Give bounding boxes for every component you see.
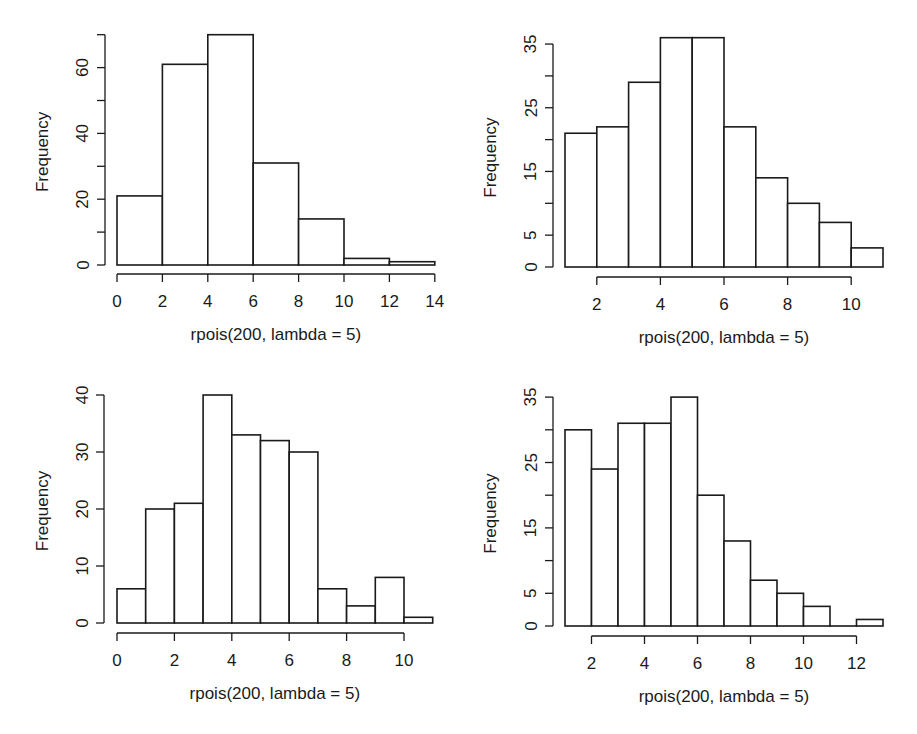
histogram-bar [777,593,804,626]
histogram-bar [597,127,629,267]
histogram-bar [404,617,433,623]
y-tick-label: 35 [522,388,541,407]
x-axis: 02468101214 [112,274,444,311]
y-axis: 010203040 [73,386,105,628]
y-axis-title: Frequency [34,111,53,192]
x-tick-label: 12 [847,654,866,673]
y-tick-label: 25 [522,453,541,472]
histogram-bar [208,35,253,265]
x-tick-label: 4 [640,654,649,673]
x-tick-label: 2 [592,295,601,314]
x-tick-label: 6 [248,292,257,311]
x-tick-label: 6 [693,654,702,673]
x-axis: 0246810 [112,633,413,670]
y-tick-label: 20 [74,190,93,209]
histogram-bar [565,133,597,267]
bars [565,38,883,267]
histogram-figure: 0204060Frequency02468101214rpois(200, la… [0,0,917,734]
histogram-bar [592,469,619,626]
histogram-panel-top-left: 0204060Frequency02468101214rpois(200, la… [34,35,445,344]
x-axis-title: rpois(200, lambda = 5) [639,328,810,347]
histogram-bar [174,503,203,623]
x-tick-label: 4 [227,651,236,670]
x-tick-label: 10 [842,295,861,314]
y-tick-label: 20 [73,500,92,519]
x-tick-label: 8 [783,295,792,314]
histogram-bar [389,262,434,265]
histogram-bar [344,258,389,265]
histogram-bar [318,589,347,623]
histogram-bar [289,452,318,623]
x-tick-label: 10 [335,292,354,311]
x-tick-label: 10 [794,654,813,673]
histogram-bar [819,222,851,267]
histogram-panel-top-right: 05152535Frequency246810rpois(200, lambda… [482,35,884,347]
y-tick-label: 5 [522,230,541,239]
y-tick-label: 0 [522,262,541,271]
x-tick-label: 8 [294,292,303,311]
y-tick-label: 0 [74,260,93,269]
histogram-bar [375,577,404,623]
histogram-bar [751,580,778,626]
histogram-bar [804,606,831,626]
histogram-bar [857,619,884,626]
x-axis-title: rpois(200, lambda = 5) [190,684,361,703]
x-tick-label: 6 [719,295,728,314]
x-tick-label: 0 [112,651,121,670]
histogram-panel-bottom-right: 05152535Frequency24681012rpois(200, lamb… [482,388,884,706]
histogram-bar [203,395,232,623]
x-tick-label: 0 [112,292,121,311]
x-tick-label: 2 [170,651,179,670]
histogram-bar [692,38,724,267]
histogram-bar [629,82,661,267]
histogram-bar [261,441,290,623]
histogram-bar [347,606,376,623]
bars [565,397,883,626]
y-axis-title: Frequency [482,473,501,554]
histogram-bar [645,423,672,626]
y-tick-label: 60 [74,58,93,77]
histogram-bar [253,163,298,265]
bars [117,35,435,265]
y-tick-label: 25 [522,98,541,117]
histogram-bar [698,495,725,626]
histogram-bar [724,541,751,626]
y-tick-label: 40 [73,386,92,405]
x-tick-label: 10 [395,651,414,670]
bars [117,395,433,623]
y-tick-label: 0 [522,621,541,630]
x-axis-title: rpois(200, lambda = 5) [191,325,362,344]
x-tick-label: 2 [587,654,596,673]
x-tick-label: 8 [342,651,351,670]
histogram-bar [162,64,207,265]
x-tick-label: 14 [425,292,444,311]
y-tick-label: 30 [73,443,92,462]
y-tick-label: 10 [73,557,92,576]
x-tick-label: 4 [203,292,212,311]
x-axis: 24681012 [587,636,866,673]
histogram-bar [788,203,820,267]
y-axis-title: Frequency [482,117,501,198]
histogram-bar [117,196,162,265]
histogram-bar [724,127,756,267]
y-tick-label: 5 [522,589,541,598]
y-tick-label: 35 [522,35,541,54]
y-axis: 0204060 [74,35,106,270]
x-tick-label: 12 [380,292,399,311]
y-tick-label: 15 [522,162,541,181]
histogram-panel-bottom-left: 010203040Frequency0246810rpois(200, lamb… [33,386,433,703]
histogram-bar [618,423,645,626]
histogram-bar [565,430,592,626]
histogram-bar [671,397,698,626]
y-tick-label: 0 [73,618,92,627]
x-tick-label: 2 [158,292,167,311]
histogram-bar [660,38,692,267]
x-axis: 246810 [592,277,861,314]
y-tick-label: 40 [74,124,93,143]
histogram-bar [117,589,146,623]
x-axis-title: rpois(200, lambda = 5) [639,687,810,706]
histogram-bar [756,178,788,267]
x-tick-label: 6 [284,651,293,670]
histogram-bar [146,509,175,623]
y-tick-label: 15 [522,518,541,537]
